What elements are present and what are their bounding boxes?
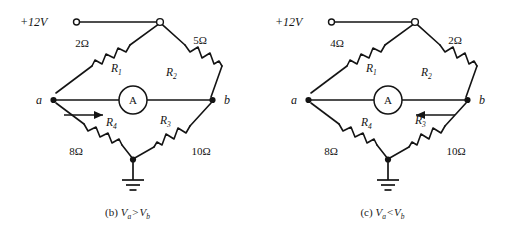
figure-row: +12V 2Ω R1 5Ω R2 8Ω R4 10Ω bbox=[0, 0, 510, 241]
resistor-r2-zigzag-c bbox=[440, 45, 477, 66]
node-b-label-c: b bbox=[479, 93, 485, 107]
current-arrow-b bbox=[64, 111, 103, 119]
wire-bottom-right-upper-b bbox=[190, 103, 211, 126]
wire-top-left-upper-b bbox=[130, 25, 158, 45]
ammeter-label-b: A bbox=[129, 94, 137, 106]
resistor-r3-value-b: 10Ω bbox=[191, 145, 210, 157]
caption-c-label: (c) bbox=[360, 206, 372, 218]
resistor-r1-value-b: 2Ω bbox=[75, 37, 89, 49]
supply-label-c: +12V bbox=[275, 15, 304, 29]
resistor-r2-label-c: R2 bbox=[420, 66, 432, 81]
node-b-label-b: b bbox=[224, 93, 230, 107]
wire-bottom-right-lower-c bbox=[388, 147, 409, 159]
node-a-dot-c bbox=[305, 97, 311, 103]
caption-c: (c) Va<Vb bbox=[255, 206, 510, 221]
resistor-r3-label-b: R3 bbox=[159, 114, 171, 129]
resistor-r3-zigzag-b bbox=[154, 126, 190, 147]
node-a-dot-b bbox=[50, 97, 56, 103]
wire-bottom-right-lower-b bbox=[133, 147, 154, 159]
wire-top-left-lower-b bbox=[56, 66, 92, 93]
caption-c-right-symbol: V bbox=[394, 206, 401, 218]
wire-top-left-upper-c bbox=[385, 25, 413, 45]
circuit-diagram-c: +12V 4Ω R1 2Ω R2 8Ω R4 10Ω R3 bbox=[255, 0, 510, 205]
supply-terminal-icon-c bbox=[329, 19, 335, 25]
resistor-r1-label-c: R1 bbox=[365, 62, 377, 77]
caption-b-right-sub: b bbox=[146, 212, 150, 221]
circuit-diagram-b: +12V 2Ω R1 5Ω R2 8Ω R4 10Ω bbox=[0, 0, 255, 205]
ammeter-label-c: A bbox=[384, 94, 392, 106]
wire-top-left-lower-c bbox=[311, 66, 347, 93]
node-b-dot-c bbox=[464, 97, 470, 103]
wire-top-right-upper-b bbox=[163, 25, 185, 45]
caption-c-relation: < bbox=[386, 206, 394, 218]
caption-c-right-sub: b bbox=[401, 212, 405, 221]
figure-c: +12V 4Ω R1 2Ω R2 8Ω R4 10Ω R3 bbox=[255, 0, 510, 241]
resistor-r4-label-b: R4 bbox=[105, 116, 117, 131]
figure-b: +12V 2Ω R1 5Ω R2 8Ω R4 10Ω bbox=[0, 0, 255, 241]
resistor-r2-zigzag-b bbox=[185, 45, 222, 66]
resistor-r2-label-b: R2 bbox=[165, 66, 177, 81]
resistor-r1-label-b: R1 bbox=[110, 62, 122, 77]
caption-b: (b) Va>Vb bbox=[0, 206, 255, 221]
caption-b-label: (b) bbox=[105, 206, 118, 218]
wire-bottom-left-upper-b bbox=[56, 103, 84, 124]
resistor-r4-value-c: 8Ω bbox=[324, 145, 338, 157]
wire-top-right-upper-c bbox=[418, 25, 440, 45]
ground-symbol-c bbox=[377, 156, 399, 190]
ground-symbol-b bbox=[122, 156, 144, 190]
wire-top-right-lower-c bbox=[466, 66, 477, 97]
resistor-r1-value-c: 4Ω bbox=[330, 37, 344, 49]
resistor-r3-zigzag-c bbox=[409, 126, 445, 147]
supply-label-b: +12V bbox=[20, 15, 49, 29]
node-b-dot-b bbox=[209, 97, 215, 103]
resistor-r3-value-c: 10Ω bbox=[446, 145, 465, 157]
node-a-label-b: a bbox=[36, 93, 42, 107]
supply-terminal-icon-b bbox=[74, 19, 80, 25]
resistor-r2-value-c: 2Ω bbox=[448, 34, 462, 46]
resistor-r2-value-b: 5Ω bbox=[193, 34, 207, 46]
node-a-label-c: a bbox=[291, 93, 297, 107]
resistor-r4-label-c: R4 bbox=[360, 116, 372, 131]
resistor-r4-value-b: 8Ω bbox=[69, 145, 83, 157]
wire-bottom-left-upper-c bbox=[311, 103, 339, 124]
wire-top-right-lower-b bbox=[211, 66, 222, 97]
